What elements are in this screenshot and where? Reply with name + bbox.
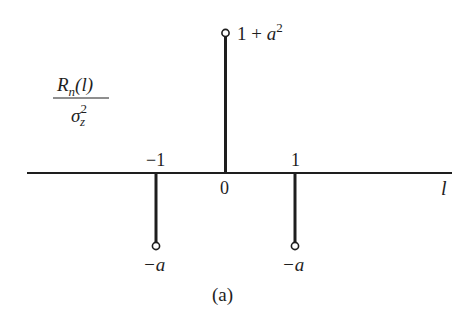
value-label-left: −a (143, 254, 165, 275)
figure-caption: (a) (212, 284, 233, 306)
y-label-denominator: σ2z (71, 101, 87, 129)
autocorrelation-stem-figure: 1 + a2 Rn(l) σ2z −1 0 1 l −a −a (a) (0, 0, 476, 321)
tick-label-zero: 0 (220, 178, 229, 198)
value-label-center: 1 + a2 (237, 20, 283, 44)
value-label-right: −a (282, 254, 304, 275)
x-axis-label: l (441, 177, 447, 199)
tick-label-minus-one: −1 (146, 150, 165, 170)
y-label-numerator: Rn(l) (56, 74, 93, 99)
tick-label-one: 1 (291, 150, 300, 170)
stem-l0-marker (222, 29, 229, 36)
stem-lminus1-marker (152, 242, 159, 249)
stem-l1-marker (291, 242, 298, 249)
